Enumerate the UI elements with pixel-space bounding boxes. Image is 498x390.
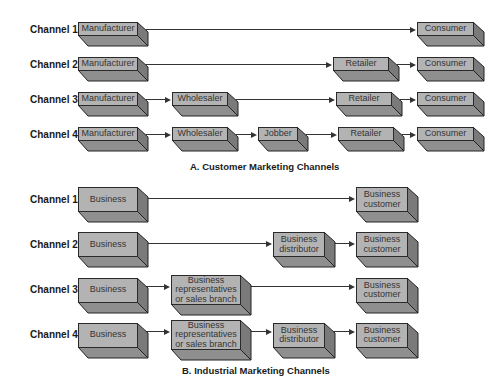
channel-node-label: Business customer xyxy=(356,278,408,303)
channel-node-label: Retailer xyxy=(338,127,394,141)
channel-node-label: Business representatives or sales branch xyxy=(171,275,241,305)
flow-line xyxy=(146,29,411,30)
section-b-channel-1-label: Channel 1 xyxy=(30,194,78,205)
arrow-head-icon xyxy=(349,329,355,335)
channel-node-label: Jobber xyxy=(258,127,298,141)
arrow-head-icon xyxy=(164,329,170,335)
section-b-caption: B. Industrial Marketing Channels xyxy=(182,365,330,376)
channel-node-label: Business customer xyxy=(356,323,408,348)
arrow-head-icon xyxy=(164,284,170,290)
arrow-head-icon xyxy=(326,62,332,68)
arrow-head-icon xyxy=(266,329,272,335)
channel-node-label: Business distributor xyxy=(273,232,325,257)
arrow-head-icon xyxy=(349,284,355,290)
channel-node-label: Business xyxy=(78,187,138,212)
channel-node-label: Consumer xyxy=(417,22,474,36)
arrow-head-icon xyxy=(410,62,416,68)
arrow-head-icon xyxy=(331,132,337,138)
channel-node-label: Consumer xyxy=(417,127,474,141)
arrow-head-icon xyxy=(410,97,416,103)
channel-node-label: Business xyxy=(78,232,138,257)
channel-node-label: Business xyxy=(78,323,138,348)
flow-line xyxy=(249,286,350,287)
arrow-head-icon xyxy=(349,241,355,247)
flow-line xyxy=(236,99,330,100)
flow-line xyxy=(146,64,327,65)
arrow-head-icon xyxy=(349,196,355,202)
channel-node-label: Business customer xyxy=(356,187,408,212)
flow-line xyxy=(146,198,350,199)
flow-line xyxy=(146,243,267,244)
section-a-channel-4-label: Channel 4 xyxy=(30,129,78,140)
channel-node-label: Wholesaler xyxy=(172,127,228,141)
channel-node-label: Consumer xyxy=(417,57,474,71)
channel-node-label: Retailer xyxy=(333,57,389,71)
channel-node-label: Business representatives or sales branch xyxy=(171,320,241,350)
channel-node-label: Manufacturer xyxy=(78,127,138,141)
arrow-head-icon xyxy=(251,132,257,138)
channel-node-label: Manufacturer xyxy=(78,22,138,36)
section-a-channel-1-label: Channel 1 xyxy=(30,24,78,35)
channel-node-label: Manufacturer xyxy=(78,92,138,106)
channel-node-label: Business xyxy=(78,278,138,303)
channel-node-label: Retailer xyxy=(336,92,392,106)
section-b-channel-3-label: Channel 3 xyxy=(30,284,78,295)
section-b-channel-2-label: Channel 2 xyxy=(30,239,78,250)
channel-node-label: Business distributor xyxy=(273,323,325,348)
arrow-head-icon xyxy=(266,241,272,247)
channel-node-label: Manufacturer xyxy=(78,57,138,71)
arrow-head-icon xyxy=(165,97,171,103)
section-b-channel-4-label: Channel 4 xyxy=(30,329,78,340)
arrow-head-icon xyxy=(410,132,416,138)
channel-node-label: Wholesaler xyxy=(172,92,228,106)
arrow-head-icon xyxy=(165,132,171,138)
section-a-channel-3-label: Channel 3 xyxy=(30,94,78,105)
section-a-channel-2-label: Channel 2 xyxy=(30,59,78,70)
channel-node-label: Business customer xyxy=(356,232,408,257)
arrow-head-icon xyxy=(329,97,335,103)
arrow-head-icon xyxy=(410,27,416,33)
section-a-caption: A. Customer Marketing Channels xyxy=(190,161,339,172)
channel-node-label: Consumer xyxy=(417,92,474,106)
